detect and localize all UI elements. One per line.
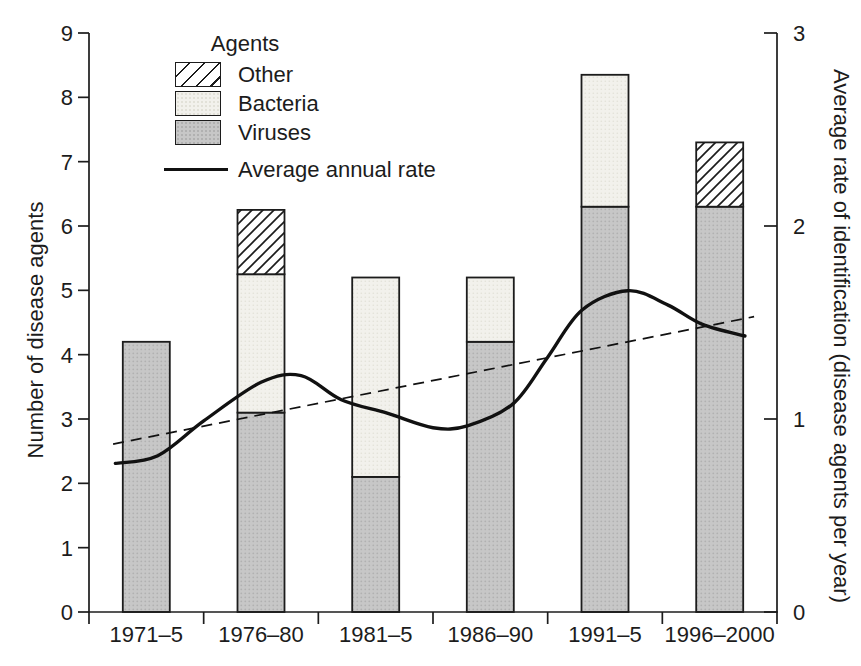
bar-segment-other-5 [696, 142, 743, 206]
legend-label-other: Other [238, 62, 293, 87]
legend-title: Agents [211, 31, 280, 57]
left-axis-tick-label: 1 [61, 536, 73, 561]
left-axis-tick-label: 3 [61, 407, 73, 432]
legend-label-bacteria: Bacteria [238, 91, 319, 116]
bar-segment-bacteria-3 [467, 278, 514, 342]
chart-canvas: 012345678901231971–51976–801981–51986–90… [0, 0, 861, 666]
chart-figure: 012345678901231971–51976–801981–51986–90… [0, 0, 861, 666]
right-axis-title: Average rate of identification (disease … [828, 69, 854, 603]
legend-swatch-other-hatch [175, 62, 221, 87]
legend-swatch-bacteria [175, 91, 221, 116]
left-axis-tick-label: 6 [61, 214, 73, 239]
x-axis-category-label: 1981–5 [339, 622, 412, 647]
right-axis-tick-label: 2 [793, 214, 805, 239]
bar-segment-bacteria-2 [352, 278, 399, 477]
trend-dashed-line [113, 317, 754, 444]
legend-label-average-annual-rate: Average annual rate [238, 157, 436, 182]
bar-segment-viruses-3 [467, 342, 514, 612]
left-axis-tick-label: 7 [61, 150, 73, 175]
bar-segment-other-1 [238, 210, 285, 274]
left-axis-title: Number of disease agents [23, 202, 49, 459]
left-axis-tick-label: 2 [61, 471, 73, 496]
bar-segment-bacteria-4 [582, 75, 629, 207]
right-axis-tick-label: 0 [793, 600, 805, 625]
x-axis-category-label: 1991–5 [568, 622, 641, 647]
bar-segment-viruses-5 [696, 207, 743, 612]
left-axis-tick-label: 8 [61, 85, 73, 110]
left-axis-tick-label: 0 [61, 600, 73, 625]
legend-line-swatch [164, 168, 228, 171]
left-axis-tick-label: 5 [61, 278, 73, 303]
average-annual-rate-curve [115, 291, 745, 464]
bar-segment-viruses-0 [123, 342, 170, 612]
bar-segment-viruses-2 [352, 477, 399, 612]
right-axis-tick-label: 1 [793, 407, 805, 432]
x-axis-category-label: 1976–80 [218, 622, 304, 647]
legend-swatch-viruses [175, 120, 221, 145]
x-axis-category-label: 1996–2000 [665, 622, 775, 647]
bar-segment-viruses-1 [238, 413, 285, 612]
x-axis-category-label: 1971–5 [110, 622, 183, 647]
right-axis-tick-label: 3 [793, 21, 805, 46]
bar-segment-viruses-4 [582, 207, 629, 612]
legend-label-viruses: Viruses [238, 120, 311, 145]
left-axis-tick-label: 9 [61, 21, 73, 46]
x-axis-category-label: 1986–90 [448, 622, 534, 647]
left-axis-tick-label: 4 [61, 343, 73, 368]
